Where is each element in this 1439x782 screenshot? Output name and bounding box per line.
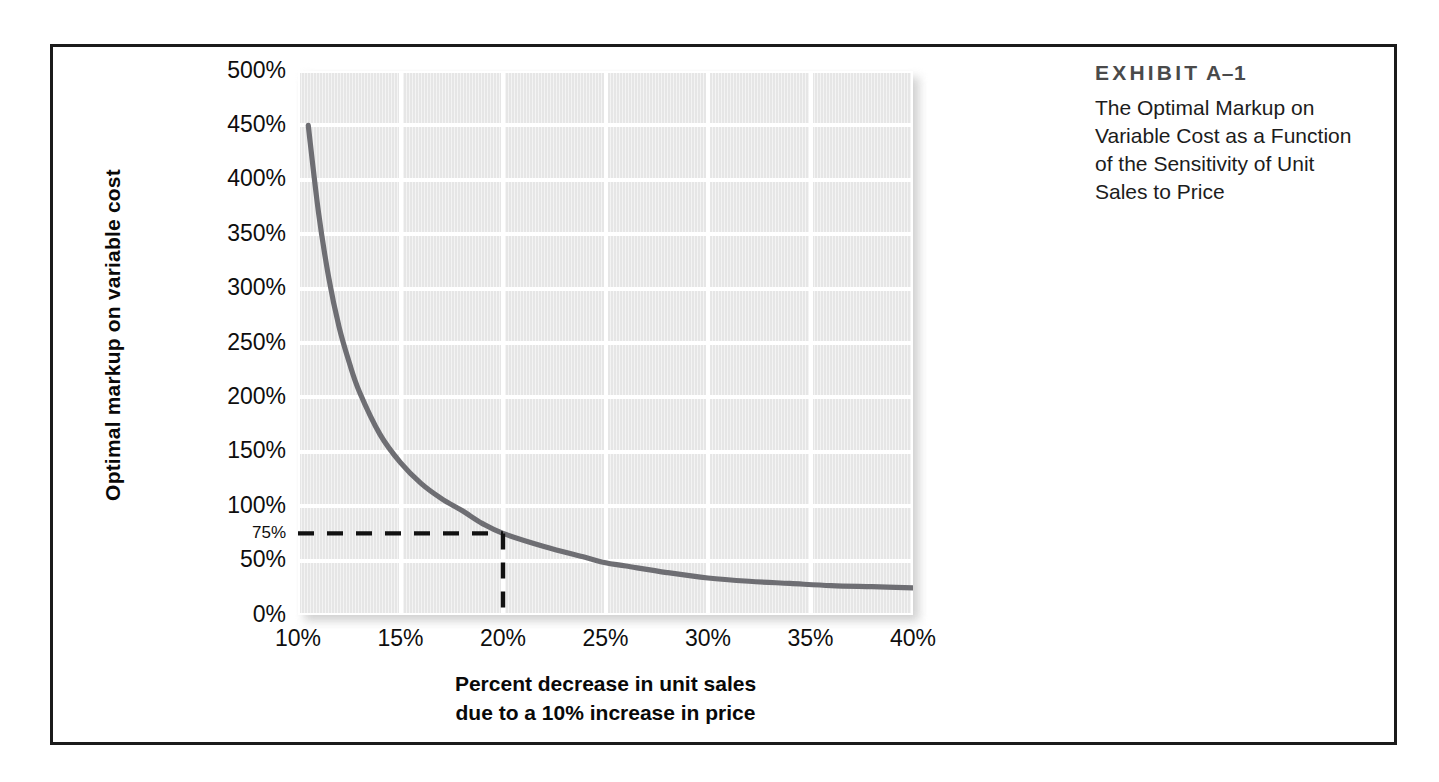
- y-tick-label: 200%: [227, 385, 286, 408]
- y-axis-title: Optimal markup on variable cost: [101, 115, 125, 555]
- y-tick-label: 500%: [227, 59, 286, 82]
- y-tick-label: 75%: [252, 524, 286, 541]
- x-tick-label: 20%: [480, 627, 526, 650]
- chart-figure: 0%50%75%100%150%200%250%300%350%400%450%…: [53, 47, 1063, 748]
- x-tick-label: 40%: [890, 627, 936, 650]
- x-axis-title-line: due to a 10% increase in price: [298, 698, 913, 727]
- x-axis-title: Percent decrease in unit salesdue to a 1…: [298, 669, 913, 727]
- exhibit-label-number: A–1: [1200, 61, 1246, 84]
- y-tick-label: 350%: [227, 222, 286, 245]
- plot-area: [298, 71, 913, 615]
- caption-line: Sales to Price: [1095, 178, 1385, 206]
- caption-line: Variable Cost as a Function: [1095, 122, 1385, 150]
- y-axis-tick-labels: 0%50%75%100%150%200%250%300%350%400%450%…: [128, 47, 286, 648]
- exhibit-caption-block: EXHIBIT A–1 The Optimal Markup onVariabl…: [1095, 61, 1385, 206]
- guide-lines: [298, 71, 913, 615]
- y-tick-label: 50%: [240, 548, 286, 571]
- x-tick-label: 30%: [685, 627, 731, 650]
- exhibit-label: EXHIBIT A–1: [1095, 61, 1385, 85]
- x-axis-title-line: Percent decrease in unit sales: [298, 669, 913, 698]
- x-tick-label: 35%: [787, 627, 833, 650]
- y-tick-label: 250%: [227, 331, 286, 354]
- y-tick-label: 300%: [227, 276, 286, 299]
- y-tick-label: 0%: [253, 603, 286, 626]
- caption-line: of the Sensitivity of Unit: [1095, 150, 1385, 178]
- y-tick-label: 400%: [227, 167, 286, 190]
- caption-line: The Optimal Markup on: [1095, 94, 1385, 122]
- x-tick-label: 15%: [377, 627, 423, 650]
- x-tick-label: 25%: [582, 627, 628, 650]
- y-tick-label: 450%: [227, 113, 286, 136]
- exhibit-label-main: EXHIBIT: [1095, 61, 1200, 84]
- exhibit-caption-text: The Optimal Markup onVariable Cost as a …: [1095, 94, 1385, 206]
- y-tick-label: 150%: [227, 439, 286, 462]
- y-tick-label: 100%: [227, 494, 286, 517]
- exhibit-frame: 0%50%75%100%150%200%250%300%350%400%450%…: [50, 44, 1397, 745]
- x-axis-tick-labels: 10%15%20%25%30%35%40%: [298, 627, 913, 661]
- x-tick-label: 10%: [275, 627, 321, 650]
